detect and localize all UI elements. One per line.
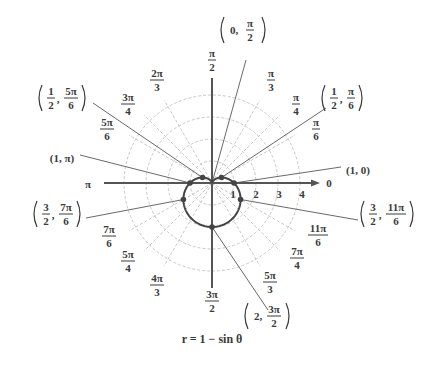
fraction-denominator: 2 (370, 215, 376, 227)
fraction-numerator: 3π (268, 303, 280, 315)
fraction-numerator: 4π (151, 272, 163, 284)
leader-p-half-pi6 (222, 108, 326, 178)
fraction-denominator: 2 (209, 61, 215, 73)
fraction-numerator: 7π (103, 223, 115, 235)
label-p-3half-11pi6: 32,11π6 (361, 201, 413, 227)
fraction-denominator: 6 (313, 130, 319, 142)
angle-label-pi-3: π3 (267, 67, 275, 93)
coordinate-r: 12 (330, 85, 338, 111)
fraction-numerator: 11π (388, 201, 404, 213)
coordinate-r: 12 (47, 85, 55, 111)
leader-p-1-0 (234, 167, 341, 183)
fraction-denominator: 2 (48, 99, 54, 111)
point-dot (231, 180, 237, 186)
label-p-1-0: (1, 0) (346, 164, 370, 177)
fraction-numerator: 3π (206, 288, 218, 300)
radial-tick-label: 1 (230, 188, 236, 200)
coordinate-r: 0, (230, 24, 239, 36)
coordinate-theta: 7π6 (59, 201, 73, 227)
angle-label-5pi-3: 5π3 (263, 269, 277, 295)
fraction-numerator: 3 (43, 201, 49, 213)
fraction-denominator: 6 (106, 237, 112, 249)
axis-label-pi: π (85, 178, 91, 190)
label-p-1-pi: (1, π) (50, 152, 75, 165)
fraction-numerator: 7π (291, 245, 303, 257)
paren-right (82, 85, 85, 111)
point-dot (181, 197, 187, 203)
grid-ray (144, 115, 212, 183)
radial-tick-label: 2 (253, 188, 259, 200)
paren-left (34, 201, 37, 227)
angle-label-pi-2: π2 (208, 47, 216, 73)
figure-caption: r = 1 − sin θ (182, 332, 243, 346)
label-p-2-3pi2: 2,3π2 (245, 303, 289, 329)
grid-ray (164, 183, 212, 266)
paren-right (410, 201, 413, 227)
label-p-half-5pi6: 12,5π6 (39, 85, 85, 111)
fraction-denominator: 2 (271, 317, 277, 329)
fraction-numerator: 3π (122, 91, 134, 103)
grid-ray (164, 100, 212, 183)
grid-ray (212, 183, 280, 251)
point-dot (209, 224, 215, 230)
fraction-denominator: 3 (154, 81, 160, 93)
grid-ray (212, 115, 280, 183)
radial-tick-label: 4 (299, 188, 305, 200)
fraction-denominator: 6 (348, 99, 354, 111)
fraction-numerator: π (293, 91, 299, 103)
label-p-0-pi2: 0,π2 (221, 17, 265, 43)
fraction-denominator: 2 (331, 99, 337, 111)
fraction-numerator: π (268, 67, 274, 79)
coordinate-r: 2, (254, 310, 263, 322)
comma: , (340, 93, 343, 105)
fraction-denominator: 6 (393, 215, 399, 227)
fraction-denominator: 2 (43, 215, 49, 227)
paren-left (221, 17, 224, 43)
paren-left (361, 201, 364, 227)
coordinate-theta: π2 (246, 17, 254, 43)
fraction-numerator: 5π (101, 116, 113, 128)
point-dot (200, 175, 206, 181)
angle-label-3pi-2: 3π2 (205, 288, 219, 314)
angle-label-7pi-6: 7π6 (102, 223, 116, 249)
coordinate-r: 32 (42, 201, 50, 227)
paren-right (359, 85, 362, 111)
coordinate-text: (1, 0) (346, 164, 370, 177)
fraction-numerator: 1 (48, 85, 54, 97)
fraction-numerator: π (209, 47, 215, 59)
paren-left (245, 303, 248, 329)
coordinate-theta: 5π6 (64, 85, 78, 111)
paren-right (77, 201, 80, 227)
angle-label-pi-4: π4 (292, 91, 300, 117)
fraction-numerator: 5π (122, 248, 134, 260)
paren-left (322, 85, 325, 111)
leader-p-3half-11pi6 (241, 200, 358, 221)
point-dot (238, 197, 244, 203)
fraction-denominator: 6 (104, 130, 110, 142)
radial-tick-label: 3 (276, 188, 282, 200)
paren-right (262, 17, 265, 43)
paren-left (39, 85, 42, 111)
angle-label-11pi-6: 11π6 (308, 222, 328, 248)
fraction-numerator: π (247, 17, 253, 29)
angle-label-2pi-3: 2π3 (150, 67, 164, 93)
leader-p-3half-7pi6 (86, 200, 183, 219)
fraction-denominator: 6 (315, 236, 321, 248)
coordinate-theta: π6 (347, 85, 355, 111)
fraction-denominator: 3 (267, 283, 273, 295)
angle-label-pi-6: π6 (312, 116, 320, 142)
angle-label-7pi-4: 7π4 (290, 245, 304, 271)
point-dot (187, 180, 193, 186)
polar-plot: 1234 0π π2π3π4π62π33π45π67π65π44π33π25π3… (0, 0, 442, 372)
fraction-denominator: 6 (63, 215, 69, 227)
label-p-half-pi6: 12,π6 (322, 85, 362, 111)
fraction-denominator: 4 (125, 262, 131, 274)
axis-label-zero: 0 (326, 177, 332, 189)
coordinate-text: (1, π) (50, 152, 75, 165)
comma: , (379, 209, 382, 221)
leader-p-2-3pi2 (212, 227, 268, 310)
paren-right (286, 303, 289, 329)
fraction-numerator: π (348, 85, 354, 97)
arrow-right-icon (311, 180, 320, 187)
fraction-numerator: 11π (310, 222, 326, 234)
